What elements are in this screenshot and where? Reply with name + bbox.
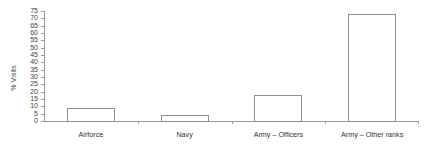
y-axis-tick: 40 xyxy=(41,62,45,63)
bar xyxy=(254,95,302,122)
y-axis-tick-label: 25 xyxy=(22,80,38,88)
x-axis-category-label: Airforce xyxy=(78,130,103,139)
bar xyxy=(161,115,209,122)
y-axis-tick-label: 5 xyxy=(22,110,38,118)
y-axis-tick: 35 xyxy=(41,70,45,71)
bar xyxy=(67,108,115,122)
y-axis-title: % Visits xyxy=(8,48,20,108)
y-axis-tick: 55 xyxy=(41,40,45,41)
y-axis-tick: 65 xyxy=(41,26,45,27)
y-axis-tick-label: 45 xyxy=(22,51,38,59)
x-axis-tick xyxy=(138,121,139,124)
y-axis-tick-label: 75 xyxy=(22,7,38,15)
y-axis-tick-label: 30 xyxy=(22,73,38,81)
y-axis-tick-label: 70 xyxy=(22,14,38,22)
y-axis-tick: 50 xyxy=(41,48,45,49)
y-axis-tick: 20 xyxy=(41,92,45,93)
y-axis-tick-label: 10 xyxy=(22,102,38,110)
y-axis-tick: 0 xyxy=(41,121,45,122)
y-axis-tick-label: 35 xyxy=(22,66,38,74)
y-axis-tick-label: 20 xyxy=(22,88,38,96)
bar-chart: % Visits 051015202530354045505560657075 … xyxy=(0,0,425,147)
y-axis-tick: 25 xyxy=(41,84,45,85)
x-axis-tick xyxy=(325,121,326,124)
y-axis-tick-label: 0 xyxy=(22,117,38,125)
y-axis-tick: 10 xyxy=(41,106,45,107)
x-axis-tick xyxy=(418,121,419,124)
y-axis-tick: 15 xyxy=(41,99,45,100)
x-axis-category-label: Army – Other ranks xyxy=(341,130,403,139)
y-axis-tick: 30 xyxy=(41,77,45,78)
y-axis-tick: 5 xyxy=(41,114,45,115)
x-axis-category-label: Navy xyxy=(176,130,192,139)
y-axis-tick-label: 15 xyxy=(22,95,38,103)
bar xyxy=(348,14,396,122)
x-axis-tick xyxy=(232,121,233,124)
y-axis-tick: 75 xyxy=(41,11,45,12)
y-axis-title-text: % Visits xyxy=(10,48,18,108)
y-axis-tick-label: 65 xyxy=(22,22,38,30)
plot-area: 051015202530354045505560657075 AirforceN… xyxy=(44,11,419,122)
y-axis-tick-label: 55 xyxy=(22,36,38,44)
y-axis-tick: 70 xyxy=(41,18,45,19)
y-axis-tick: 45 xyxy=(41,55,45,56)
y-axis-tick-label: 50 xyxy=(22,44,38,52)
x-axis-category-label: Army – Officers xyxy=(254,130,303,139)
y-axis-tick: 60 xyxy=(41,33,45,34)
y-axis-tick-label: 40 xyxy=(22,58,38,66)
y-axis-tick-label: 60 xyxy=(22,29,38,37)
